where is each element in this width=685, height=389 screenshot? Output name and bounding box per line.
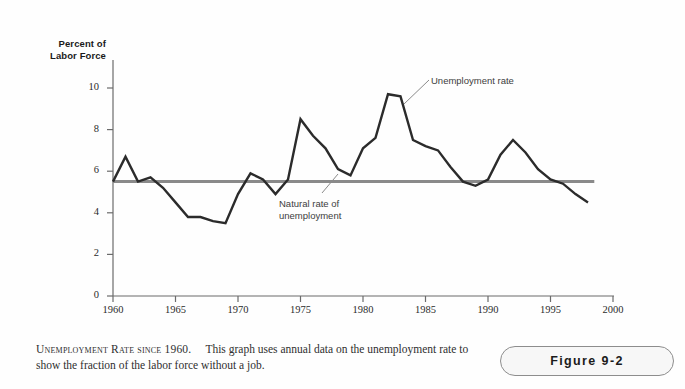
x-axis-tick-label: 1980: [343, 304, 383, 315]
y-axis-ticks: [107, 88, 113, 296]
x-axis-tick-label: 1975: [281, 304, 321, 315]
x-axis-tick-label: 1960: [93, 304, 133, 315]
y-axis-tick-label: 8: [77, 123, 99, 134]
x-axis-tick-label: 1990: [468, 304, 508, 315]
figure-number-badge: Figure 9-2: [500, 346, 674, 376]
y-axis-title-line-1: Percent of: [40, 38, 106, 50]
y-axis-tick-label: 6: [77, 164, 99, 175]
natural-rate-annotation-line-1: Natural rate of: [279, 198, 341, 210]
figure-container: Percent of Labor Force 0246810 196019651…: [0, 0, 685, 389]
unemployment-label-leader-line: [404, 80, 429, 104]
x-axis-tick-label: 2000: [593, 304, 633, 315]
figure-caption: Unemployment Rate since 1960.This graph …: [36, 342, 476, 373]
x-axis-tick-label: 1970: [218, 304, 258, 315]
y-axis-tick-label: 2: [77, 247, 99, 258]
y-axis-tick-label: 0: [77, 289, 99, 300]
natural-rate-annotation-line-2: unemployment: [279, 210, 341, 222]
figure-number-label: Figure 9-2: [501, 347, 673, 377]
natural-rate-label-leader-line: [322, 174, 338, 193]
x-axis-tick-label: 1995: [531, 304, 571, 315]
natural-rate-annotation: Natural rate of unemployment: [279, 198, 341, 222]
unemployment-rate-annotation: Unemployment rate: [431, 75, 514, 87]
caption-heading: Unemployment Rate since 1960.: [36, 343, 191, 355]
unemployment-rate-line: [113, 94, 588, 223]
x-axis-tick-label: 1985: [406, 304, 446, 315]
y-axis-title-line-2: Labor Force: [34, 50, 106, 62]
chart-panel: Percent of Labor Force 0246810 196019651…: [0, 0, 685, 325]
y-axis-tick-label: 10: [77, 81, 99, 92]
x-axis-ticks: [113, 296, 613, 302]
y-axis-tick-label: 4: [77, 206, 99, 217]
x-axis-tick-label: 1965: [156, 304, 196, 315]
